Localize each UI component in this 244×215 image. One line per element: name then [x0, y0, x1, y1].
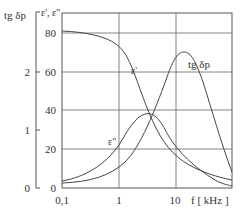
x-tick-1: 1 — [116, 194, 122, 206]
outer-axis — [36, 12, 40, 188]
inner-axis-label: ε', ε" — [41, 7, 60, 18]
outer-axis-label: tg δp — [4, 9, 26, 21]
x-tick-10: 10 — [170, 194, 182, 206]
series-eps-prime — [62, 31, 232, 180]
inner-tick-20: 20 — [45, 143, 57, 155]
outer-tick-1: 1 — [25, 124, 31, 136]
x-tick-0.1: 0,1 — [55, 194, 69, 206]
annotation-eps-prime: ε' — [131, 65, 137, 76]
inner-tick-60: 60 — [45, 66, 57, 78]
outer-tick-0: 0 — [25, 182, 31, 194]
annotation-tg-delta: tg δp — [188, 58, 210, 70]
curves — [62, 31, 232, 186]
inner-tick-80: 80 — [45, 27, 57, 39]
series-eps-double-prime — [62, 114, 232, 186]
inner-tick-0: 0 — [51, 182, 57, 194]
x-axis-label: f [ kHz ] — [191, 194, 229, 206]
plot-frame — [62, 13, 232, 188]
chart: tg δp ε', ε" 2 1 0 80 60 40 20 0 0,1 1 1… — [0, 0, 244, 215]
outer-tick-2: 2 — [25, 66, 31, 78]
inner-tick-40: 40 — [45, 104, 57, 116]
grid — [62, 13, 232, 188]
annotation-eps-double-prime: ε" — [108, 136, 116, 147]
